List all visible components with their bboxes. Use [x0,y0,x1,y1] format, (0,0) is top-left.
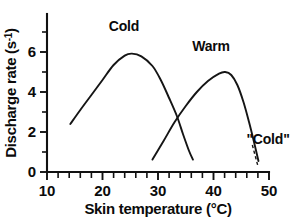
x-axis-ticks [47,172,269,180]
x-tick-label-30: 30 [150,182,166,199]
x-tick-label-10: 10 [39,182,55,199]
y-axis-title-main: Discharge rate (s [2,41,19,158]
y-axis-title: Discharge rate (s-1) [2,28,19,158]
warm-receptor-curve [152,72,258,161]
x-tick-label-50: 50 [261,182,277,199]
cold-receptor-curve [70,54,193,160]
x-tick-label-40: 40 [205,182,221,199]
y-axis-title-close: ) [2,28,19,33]
svg-text:Discharge rate (s-1): Discharge rate (s-1) [2,28,19,158]
warm-curve-label: Warm [192,38,230,54]
discharge-rate-plot: 0 2 4 6 10 20 30 40 50 Skin temperature … [0,0,301,220]
y-tick-label-4: 4 [28,83,37,100]
y-tick-label-2: 2 [28,123,36,140]
cold-curve-label: Cold [109,18,139,34]
x-axis-title: Skin temperature (°C) [84,200,232,217]
chart-figure: 0 2 4 6 10 20 30 40 50 Skin temperature … [0,0,301,220]
y-tick-label-0: 0 [28,163,36,180]
x-tick-label-20: 20 [94,182,110,199]
paradoxical-cold-label: "Cold" [246,131,289,147]
y-tick-label-6: 6 [28,43,36,60]
